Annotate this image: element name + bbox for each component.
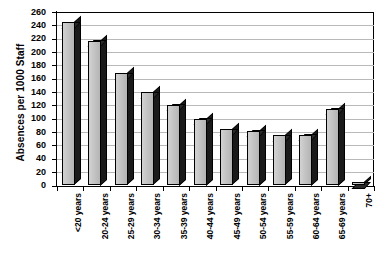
- x-tick-label: 50-54 years: [259, 193, 268, 267]
- x-tick-label: 30-34 years: [153, 193, 162, 267]
- x-tick-label: 20-24 years: [101, 193, 110, 267]
- x-tick-label: 25-29 years: [127, 193, 136, 267]
- x-tick-label: <20 years: [74, 193, 83, 267]
- x-tick-label: 70+: [365, 193, 374, 267]
- bar-chart: Absences per 1000 Staff 0204060801001201…: [0, 0, 384, 267]
- x-axis-labels: <20 years20-24 years25-29 years30-34 yea…: [0, 0, 384, 267]
- x-tick-label: 65-69 years: [338, 193, 347, 267]
- x-tick-label: 40-44 years: [206, 193, 215, 267]
- x-tick-label: 55-59 years: [286, 193, 295, 267]
- x-tick-label: 60-64 years: [312, 193, 321, 267]
- x-tick-label: 35-39 years: [180, 193, 189, 267]
- x-tick-label: 45-49 years: [233, 193, 242, 267]
